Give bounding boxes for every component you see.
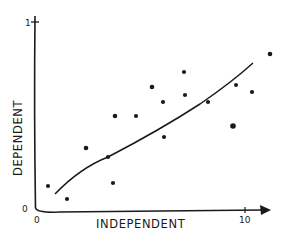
y-tick-label-min: 0: [22, 204, 28, 214]
data-point: [106, 155, 110, 159]
x-axis-arrow-icon: [260, 205, 271, 215]
data-point: [65, 197, 69, 201]
data-point: [183, 93, 187, 97]
data-point: [234, 83, 238, 87]
data-point: [113, 114, 118, 119]
data-point: [84, 146, 89, 151]
data-points: [46, 52, 272, 201]
data-point: [150, 85, 155, 90]
scatter-chart: 1 0 0 10 INDEPENDENT DEPENDENT: [0, 0, 284, 246]
data-point: [161, 100, 165, 104]
y-axis-line: [35, 16, 36, 208]
x-axis-title: INDEPENDENT: [96, 217, 186, 231]
y-axis-title: DEPENDENT: [11, 100, 25, 176]
data-point: [162, 135, 166, 139]
data-point: [250, 90, 254, 94]
data-point: [268, 52, 273, 57]
x-axis-line: [36, 208, 263, 212]
x-tick-label-max: 10: [239, 215, 251, 225]
data-point: [134, 114, 138, 118]
y-tick-label-max: 1: [25, 18, 31, 28]
data-point: [206, 100, 210, 104]
data-point: [230, 123, 236, 129]
trend-line: [55, 63, 253, 194]
x-tick-label-min: 0: [34, 215, 40, 225]
data-point: [111, 181, 115, 185]
data-point: [182, 70, 186, 74]
data-point: [46, 184, 50, 188]
